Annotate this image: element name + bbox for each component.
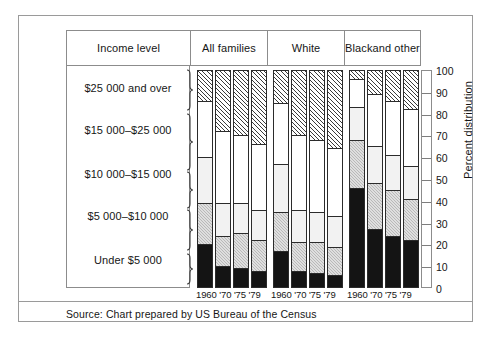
header-group-all-families: All families (190, 30, 267, 66)
segment-15000-25000 (273, 103, 289, 164)
segment-10000-15000 (385, 155, 401, 190)
segment-10000-15000 (403, 166, 419, 199)
segment-5000-10000 (385, 190, 401, 236)
segment-25000-and-over (309, 70, 325, 140)
segment-5000-10000 (367, 183, 383, 229)
segment-5000-10000 (403, 199, 419, 240)
income-level-15000-25000: $15 000–$25 000 (67, 116, 189, 144)
segment-25000-and-over (367, 70, 383, 94)
axis-label-30: 30 (436, 218, 448, 230)
bar-white-1975[interactable] (309, 70, 325, 288)
segment-10000-15000 (273, 164, 289, 212)
axis-label-40: 40 (436, 196, 448, 208)
segment-25000-and-over (403, 70, 419, 109)
segment-5000-10000 (233, 233, 249, 268)
segment-10000-15000 (197, 157, 213, 203)
segment-15000-25000 (215, 131, 231, 203)
bar-group-black-and-other (345, 70, 421, 288)
segment-5000-10000 (309, 242, 325, 273)
segment-under-5000 (273, 251, 289, 288)
axis-label-0: 0 (436, 283, 442, 295)
income-level-25000-and-over: $25 000 and over (67, 74, 189, 102)
bar-white-1979[interactable] (327, 70, 343, 288)
brace-marks (181, 68, 195, 288)
axis-tick-80 (422, 115, 431, 116)
bar-white-1960[interactable] (273, 70, 289, 288)
axis-tick-30 (422, 224, 431, 225)
axis-tick-50 (422, 180, 431, 181)
bar-group-white (270, 70, 345, 288)
header-group-black-and-other-line1: Black (345, 42, 372, 54)
segment-10000-15000 (233, 203, 249, 234)
source-note: Source: Chart prepared by US Bureau of t… (66, 308, 317, 320)
segment-under-5000 (349, 188, 365, 288)
segment-15000-25000 (291, 135, 307, 209)
segment-25000-and-over (215, 70, 231, 131)
axis-tick-60 (422, 158, 431, 159)
segment-25000-and-over (291, 70, 307, 135)
segment-10000-15000 (367, 146, 383, 183)
segment-10000-15000 (291, 210, 307, 243)
bar-black-and-other-1970[interactable] (367, 70, 383, 288)
segment-25000-and-over (385, 70, 401, 101)
segment-under-5000 (403, 240, 419, 288)
header-group-white: White (267, 30, 344, 66)
axis-label-20: 20 (436, 239, 448, 251)
bar-black-and-other-1979[interactable] (403, 70, 419, 288)
segment-15000-25000 (309, 140, 325, 212)
segment-15000-25000 (367, 94, 383, 146)
segment-25000-and-over (327, 70, 343, 148)
axis-label-60: 60 (436, 152, 448, 164)
segment-15000-25000 (327, 148, 343, 216)
segment-under-5000 (251, 271, 267, 288)
axis-label-70: 70 (436, 130, 448, 142)
plot-area (195, 70, 421, 288)
bar-all-families-1979[interactable] (251, 70, 267, 288)
segment-10000-15000 (349, 107, 365, 140)
segment-15000-25000 (403, 109, 419, 166)
segment-5000-10000 (349, 140, 365, 188)
segment-5000-10000 (291, 242, 307, 270)
percent-axis (421, 70, 432, 288)
axis-tick-20 (422, 245, 431, 246)
segment-under-5000 (309, 273, 325, 288)
axis-title-percent-distribution: Percent distribution (462, 81, 474, 179)
income-level-column: $25 000 and over $15 000–$25 000 $10 000… (66, 66, 190, 288)
source-divider (19, 301, 472, 302)
segment-10000-15000 (309, 212, 325, 243)
segment-under-5000 (327, 275, 343, 288)
segment-25000-and-over (273, 70, 289, 103)
bar-black-and-other-1975[interactable] (385, 70, 401, 288)
header-group-black-and-other-line2: and other (373, 42, 420, 54)
segment-15000-25000 (251, 144, 267, 209)
segment-under-5000 (233, 268, 249, 288)
table-header-row: Income level All families White Blackand… (66, 30, 421, 66)
segment-5000-10000 (215, 236, 231, 267)
segment-10000-15000 (251, 210, 267, 241)
segment-10000-15000 (327, 216, 343, 247)
axis-label-80: 80 (436, 109, 448, 121)
axis-label-90: 90 (436, 87, 448, 99)
bar-black-and-other-1960[interactable] (349, 70, 365, 288)
bar-group-all-families (195, 70, 270, 288)
segment-15000-25000 (197, 101, 213, 158)
bar-all-families-1970[interactable] (215, 70, 231, 288)
segment-25000-and-over (349, 70, 365, 79)
income-level-under-5000: Under $5 000 (67, 246, 189, 274)
segment-under-5000 (367, 229, 383, 288)
chart-page: Income level All families White Blackand… (0, 0, 495, 340)
axis-tick-10 (422, 267, 431, 268)
segment-5000-10000 (197, 203, 213, 244)
segment-25000-and-over (197, 70, 213, 101)
segment-5000-10000 (273, 212, 289, 251)
bar-all-families-1960[interactable] (197, 70, 213, 288)
segment-5000-10000 (251, 240, 267, 271)
segment-15000-25000 (385, 101, 401, 156)
header-group-black-and-other: Blackand other (344, 30, 421, 66)
segment-5000-10000 (327, 247, 343, 275)
segment-15000-25000 (233, 135, 249, 203)
bar-white-1970[interactable] (291, 70, 307, 288)
bar-all-families-1975[interactable] (233, 70, 249, 288)
segment-25000-and-over (251, 70, 267, 144)
axis-label-10: 10 (436, 261, 448, 273)
